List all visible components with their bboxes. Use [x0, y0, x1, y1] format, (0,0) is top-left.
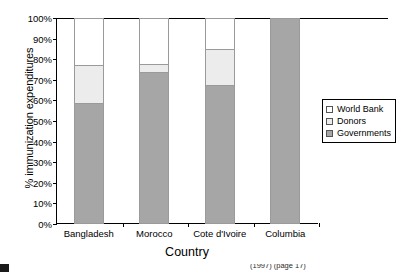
y-tick-label-70: 70%	[18, 74, 52, 85]
y-tick-label-10: 10%	[18, 198, 52, 209]
bar-segment-donors	[75, 66, 103, 104]
bars-layer	[56, 18, 318, 224]
legend-swatch-icon	[326, 106, 333, 113]
x-tick-label-cote-d-ivoire: Cote d'Ivoire	[193, 228, 246, 239]
legend-item-donors[interactable]: Donors	[326, 115, 391, 127]
x-tick-label-morocco: Morocco	[136, 228, 172, 239]
legend-item-governments[interactable]: Governments	[326, 127, 391, 139]
legend-label: Governments	[337, 129, 391, 138]
legend-label: World Bank	[337, 105, 383, 114]
caption-strip: (1997) (page 17)	[0, 264, 397, 272]
caption-text: (1997) (page 17)	[250, 264, 306, 270]
y-tick-label-50: 50%	[18, 116, 52, 127]
x-axis-title: Country	[56, 245, 318, 259]
y-tick-label-40: 40%	[18, 136, 52, 147]
y-tick-label-0: 0%	[18, 219, 52, 230]
y-tick-label-60: 60%	[18, 95, 52, 106]
bar-group	[205, 18, 235, 224]
x-tick-label-bangladesh: Bangladesh	[64, 228, 114, 239]
y-tick-label-30: 30%	[18, 157, 52, 168]
y-axis-tick-labels: 0%10%20%30%40%50%60%70%80%90%100%	[18, 18, 52, 224]
legend-swatch-icon	[326, 118, 333, 125]
bar-segment-donors	[140, 65, 168, 73]
bar-segment-governments	[206, 86, 234, 223]
stacked-bar	[270, 18, 300, 224]
legend-swatch-icon	[326, 130, 333, 137]
stacked-bar	[139, 18, 169, 224]
chart-legend: World BankDonorsGovernments	[322, 99, 396, 143]
legend-label: Donors	[337, 117, 366, 126]
bar-group	[74, 18, 104, 224]
y-tick-mark	[53, 224, 57, 225]
bar-segment-governments	[271, 19, 299, 223]
bar-group	[270, 18, 300, 224]
x-tick-mark	[319, 223, 320, 227]
bar-group	[139, 18, 169, 224]
stacked-bar	[74, 18, 104, 224]
bar-segment-governments	[75, 104, 103, 223]
y-tick-label-20: 20%	[18, 177, 52, 188]
bar-segment-donors	[206, 50, 234, 87]
y-tick-label-80: 80%	[18, 54, 52, 65]
bar-segment-governments	[140, 73, 168, 223]
bar-segment-world-bank	[140, 19, 168, 65]
x-tick-label-columbia: Columbia	[265, 228, 305, 239]
caption-marker-icon	[0, 264, 9, 272]
x-axis-tick-labels: BangladeshMoroccoCote d'IvoireColumbia	[56, 228, 318, 242]
immunization-expenditures-chart: % immunization expenditures 0%10%20%30%4…	[0, 0, 397, 272]
bar-segment-world-bank	[206, 19, 234, 50]
legend-item-world-bank[interactable]: World Bank	[326, 103, 391, 115]
y-tick-label-100: 100%	[18, 13, 52, 24]
y-tick-label-90: 90%	[18, 33, 52, 44]
stacked-bar	[205, 18, 235, 224]
bar-segment-world-bank	[75, 19, 103, 66]
